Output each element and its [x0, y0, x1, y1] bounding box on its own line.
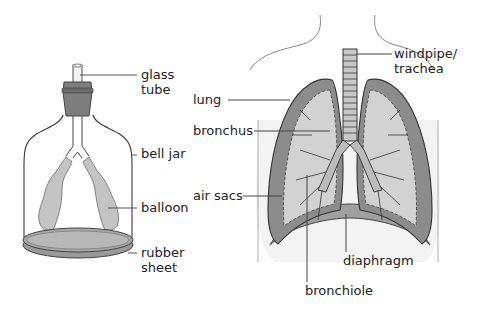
label-air-sacs: air sacs: [193, 189, 243, 203]
label-glass-tube-line1: glass: [141, 68, 174, 82]
label-windpipe-line1: windpipe/: [394, 47, 457, 61]
label-rubber-sheet-line2: sheet: [141, 261, 177, 275]
label-lung: lung: [193, 93, 221, 107]
label-bell-jar: bell jar: [141, 147, 186, 161]
label-bronchiole: bronchiole: [305, 284, 373, 298]
label-diaphragm: diaphragm: [343, 254, 414, 268]
y-tube: [66, 116, 89, 158]
balloon-left: [39, 157, 72, 230]
label-bronchus: bronchus: [193, 124, 253, 138]
balloon-right: [83, 157, 119, 230]
label-rubber-sheet-line1: rubber: [141, 246, 184, 260]
label-windpipe-line2: trachea: [394, 62, 444, 76]
label-balloon: balloon: [141, 201, 189, 215]
bell-jar-model: [23, 64, 137, 258]
label-glass-tube-line2: tube: [141, 83, 171, 97]
rubber-stopper: [63, 82, 92, 116]
